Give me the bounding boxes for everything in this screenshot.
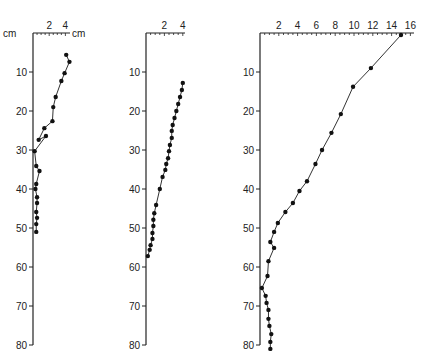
x-unit-label: cm xyxy=(72,28,85,39)
x-tick-label: 10 xyxy=(348,20,360,31)
right-panel: 1020304050607080246810121416 xyxy=(243,20,417,351)
data-point xyxy=(276,221,280,225)
y-tick-label: 80 xyxy=(16,340,28,351)
data-point xyxy=(35,216,39,220)
y-unit-label: cm xyxy=(3,28,16,39)
data-point xyxy=(268,240,272,244)
data-point xyxy=(34,222,38,226)
data-point xyxy=(174,109,178,113)
data-point xyxy=(166,156,170,160)
left-panel: 102030405060708024 xyxy=(16,20,72,351)
data-point xyxy=(180,88,184,92)
data-point xyxy=(283,210,287,214)
y-tick-label: 50 xyxy=(129,223,141,234)
data-point xyxy=(170,136,174,140)
data-point xyxy=(178,95,182,99)
data-point xyxy=(272,230,276,234)
data-point xyxy=(36,138,40,142)
y-tick-label: 30 xyxy=(129,145,141,156)
data-point xyxy=(168,143,172,147)
data-point xyxy=(266,259,270,263)
x-tick-label: 4 xyxy=(180,20,186,31)
y-tick-label: 10 xyxy=(129,67,141,78)
data-point xyxy=(267,324,271,328)
data-point xyxy=(147,248,151,252)
data-point xyxy=(50,119,54,123)
data-point xyxy=(62,71,66,75)
data-point xyxy=(67,60,71,64)
data-point xyxy=(351,85,355,89)
data-point xyxy=(154,203,158,207)
data-point xyxy=(151,224,155,228)
y-tick-label: 70 xyxy=(243,301,255,312)
data-point xyxy=(42,126,46,130)
data-point xyxy=(146,254,150,258)
data-point xyxy=(167,149,171,153)
data-point xyxy=(266,317,270,321)
y-tick-label: 80 xyxy=(129,340,141,351)
data-point xyxy=(181,81,185,85)
data-point xyxy=(176,102,180,106)
data-point xyxy=(150,237,154,241)
data-point xyxy=(268,347,272,351)
data-point xyxy=(170,129,174,133)
middle-panel: 102030405060708024 xyxy=(129,20,186,351)
data-point xyxy=(170,123,174,127)
data-point xyxy=(163,168,167,172)
data-point xyxy=(152,211,156,215)
data-point xyxy=(34,182,38,186)
data-point xyxy=(35,195,39,199)
x-tick-label: 4 xyxy=(295,20,301,31)
data-point xyxy=(369,66,373,70)
data-point xyxy=(44,134,48,138)
x-tick-label: 16 xyxy=(405,20,417,31)
y-tick-label: 40 xyxy=(16,184,28,195)
y-tick-label: 30 xyxy=(243,145,255,156)
data-point xyxy=(53,95,57,99)
data-point xyxy=(32,149,36,153)
data-point xyxy=(150,231,154,235)
data-point xyxy=(313,162,317,166)
y-tick-label: 80 xyxy=(243,340,255,351)
y-tick-label: 40 xyxy=(243,184,255,195)
data-point xyxy=(339,112,343,116)
data-point xyxy=(34,164,38,168)
depth-profile-chart: 102030405060708024 102030405060708024 10… xyxy=(0,0,428,360)
data-point xyxy=(151,218,155,222)
data-point xyxy=(59,79,63,83)
data-point xyxy=(164,162,168,166)
x-tick-label: 8 xyxy=(332,20,338,31)
y-tick-label: 20 xyxy=(243,106,255,117)
y-tick-label: 60 xyxy=(16,262,28,273)
y-tick-label: 40 xyxy=(129,184,141,195)
data-point xyxy=(35,201,39,205)
data-point xyxy=(263,294,267,298)
data-point xyxy=(266,308,270,312)
data-point xyxy=(160,175,164,179)
data-point xyxy=(291,201,295,205)
data-point xyxy=(34,230,38,234)
y-tick-label: 20 xyxy=(129,106,141,117)
data-point xyxy=(33,187,37,191)
data-point xyxy=(34,210,38,214)
data-point xyxy=(51,105,55,109)
data-point xyxy=(329,131,333,135)
data-point xyxy=(37,169,41,173)
data-point xyxy=(158,187,162,191)
data-point xyxy=(399,33,403,37)
profile-line xyxy=(262,35,401,349)
data-point xyxy=(264,301,268,305)
data-point xyxy=(260,286,264,290)
x-tick-label: 2 xyxy=(46,20,52,31)
data-point xyxy=(172,116,176,120)
x-tick-label: 2 xyxy=(162,20,168,31)
data-point xyxy=(305,179,309,183)
y-tick-label: 20 xyxy=(16,106,28,117)
y-tick-label: 10 xyxy=(243,67,255,78)
y-tick-label: 30 xyxy=(16,145,28,156)
y-tick-label: 60 xyxy=(243,262,255,273)
data-point xyxy=(269,332,273,336)
data-point xyxy=(320,148,324,152)
y-tick-label: 70 xyxy=(129,301,141,312)
data-point xyxy=(297,189,301,193)
